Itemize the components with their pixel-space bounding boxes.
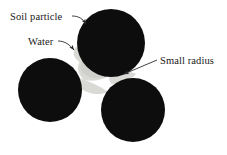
leader-line-water bbox=[58, 41, 74, 50]
soil-particle-left bbox=[18, 58, 82, 122]
label-small-radius: Small radius bbox=[160, 55, 214, 66]
diagram-canvas: Soil particle Water Small radius bbox=[0, 0, 227, 155]
soil-particle-water-meniscus-diagram: Soil particle Water Small radius bbox=[0, 0, 227, 155]
label-soil-particle: Soil particle bbox=[10, 11, 63, 22]
soil-particle-top bbox=[77, 9, 145, 77]
label-water: Water bbox=[28, 36, 54, 47]
soil-particle-bottom-right bbox=[101, 78, 165, 142]
